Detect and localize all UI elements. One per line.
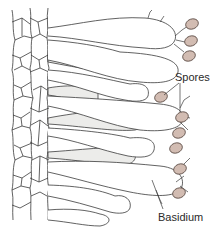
- spores-label: Spores: [175, 72, 210, 83]
- tissue-cells: [12, 8, 49, 220]
- spore: [153, 90, 169, 104]
- basidium-diagram: [0, 0, 219, 235]
- spore: [168, 141, 184, 155]
- spore: [184, 17, 200, 31]
- basidium-label: Basidium: [158, 212, 203, 223]
- spore: [181, 49, 197, 63]
- spores-leader-1: [164, 83, 179, 95]
- spore: [183, 34, 199, 48]
